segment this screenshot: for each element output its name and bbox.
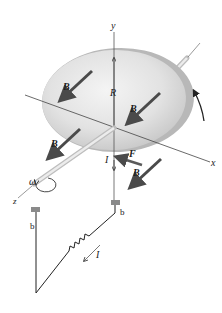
faraday-disk-diagram: x y R z B B B B F I ω (0, 0, 222, 313)
omega-label: ω (29, 176, 36, 187)
b-field-label-4: B (132, 167, 140, 178)
brush-axle-label: b (30, 221, 35, 231)
diagram-canvas: x y R z B B B B F I ω (0, 0, 222, 313)
brush-rim (111, 200, 120, 205)
z-axis-label: z (12, 196, 17, 206)
disk-current-label: I (104, 154, 109, 165)
radius-label: R (109, 87, 116, 98)
rotation-direction-arrow (194, 91, 204, 121)
b-field-label-1: B (62, 81, 70, 92)
force-label: F (128, 148, 136, 159)
x-axis-label: x (210, 157, 216, 168)
y-axis-label: y (110, 20, 116, 31)
circuit-wire (36, 205, 115, 293)
brush-rim-label: b (120, 207, 125, 217)
b-field-label-3: B (50, 138, 58, 149)
brush-axle (31, 207, 40, 212)
force-arrow (120, 158, 142, 165)
circuit-current-label: I (95, 249, 100, 260)
b-field-label-2: B (129, 103, 137, 114)
